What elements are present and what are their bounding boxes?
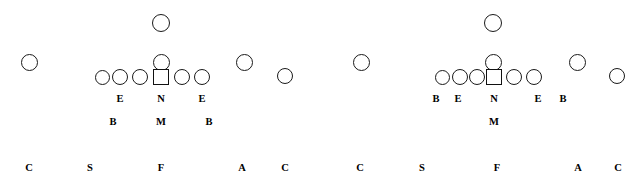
right-formation-defender-line-2 [452, 69, 468, 85]
right-formation-defender-wide-left [353, 54, 370, 71]
right-formation-label-corner-right: C [614, 163, 622, 174]
right-formation-label-backer-left: B [432, 94, 439, 105]
right-formation-defender-mid-middle [485, 54, 502, 71]
right-formation-label-backer-right: B [559, 94, 566, 105]
right-formation-label-nose: N [490, 94, 498, 105]
right-formation-label-end-right: E [534, 94, 541, 105]
right-formation-label-mike: M [489, 117, 499, 128]
right-formation-label-strong-safety: S [419, 163, 425, 174]
right-formation-defender-line-1 [435, 70, 450, 85]
right-formation-label-end-left: E [454, 94, 461, 105]
formation-diagram: ENEBMBCSFACBENEBMCSFAC [0, 0, 641, 188]
right-formation-defender-nose-square [486, 69, 502, 85]
right-formation-defender-line-6 [526, 69, 542, 85]
right-formation: BENEBMCSFAC [0, 0, 641, 188]
right-formation-defender-deep-middle [484, 14, 502, 32]
right-formation-label-corner-left: C [356, 163, 364, 174]
right-formation-defender-wide-right-in [569, 54, 586, 71]
right-formation-defender-line-3 [469, 69, 485, 85]
right-formation-defender-wide-right-out [609, 68, 625, 84]
right-formation-defender-line-5 [506, 69, 522, 85]
right-formation-label-free-safety: F [494, 163, 500, 174]
right-formation-label-adjuster: A [574, 163, 582, 174]
